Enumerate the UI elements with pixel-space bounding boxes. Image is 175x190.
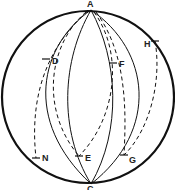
label-N: N [42,154,49,163]
dashed-arc-A-F-E [79,12,112,156]
sphere-diagram: A C D F H N E G [0,0,175,190]
label-D: D [52,57,59,66]
label-C: C [87,185,94,190]
label-H: H [144,40,151,49]
label-A: A [87,0,94,9]
dashed-arc-A-D-E [53,12,86,156]
label-F: F [119,60,125,69]
label-G: G [129,156,136,165]
label-E: E [85,154,91,163]
meridian-right-inner [91,10,113,184]
dashed-arc-A-F-G [96,12,125,155]
solid-meridians [46,10,139,184]
